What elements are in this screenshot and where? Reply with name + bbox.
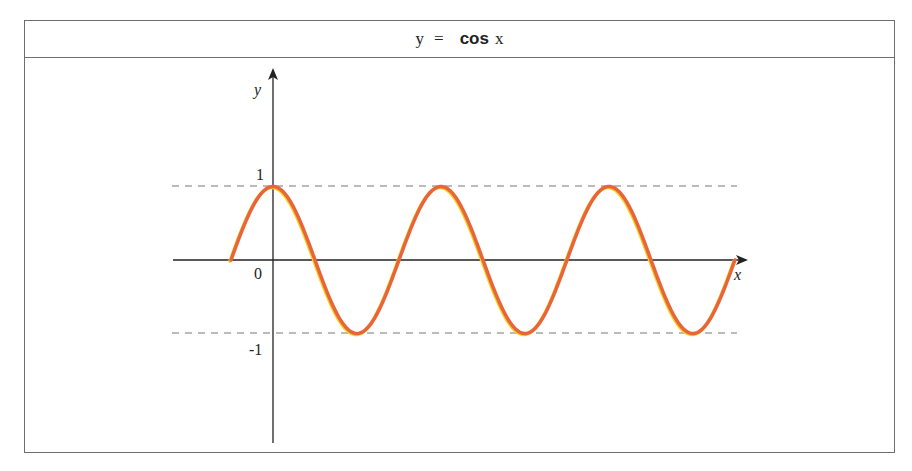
x-axis-label: x bbox=[733, 266, 741, 283]
tick-label-minus-1: -1 bbox=[249, 341, 262, 358]
plot-area: y x 0 1 -1 bbox=[0, 0, 912, 471]
y-axis-label: y bbox=[252, 81, 262, 99]
origin-label: 0 bbox=[254, 265, 262, 282]
tick-label-1: 1 bbox=[256, 166, 264, 183]
